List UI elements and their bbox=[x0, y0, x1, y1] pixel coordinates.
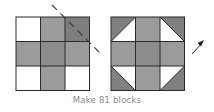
caption: Make 81 blocks bbox=[0, 95, 214, 105]
arrow-icon bbox=[192, 40, 204, 54]
cell-light bbox=[65, 66, 90, 91]
right-block bbox=[111, 17, 185, 91]
cell-medium bbox=[65, 42, 90, 67]
cell-light bbox=[16, 17, 41, 42]
cell-dark bbox=[65, 17, 90, 42]
cell-medium bbox=[16, 42, 41, 67]
cell-center bbox=[136, 42, 161, 67]
left-block bbox=[16, 5, 100, 91]
cell-center bbox=[41, 42, 66, 67]
cell-medium bbox=[41, 17, 66, 42]
cell-medium bbox=[41, 66, 66, 91]
cell-light bbox=[16, 66, 41, 91]
